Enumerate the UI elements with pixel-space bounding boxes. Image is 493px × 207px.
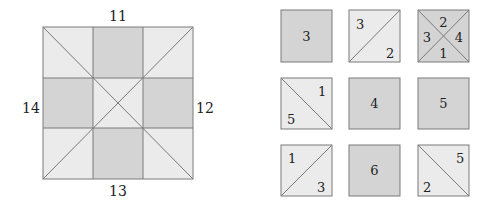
tile: 1 5 — [281, 78, 332, 129]
cell-bottom-middle — [93, 128, 143, 179]
tile-grid: 3 3 2 2 4 1 3 1 5 4 5 — [281, 10, 469, 196]
tile-label: 1 — [318, 84, 326, 99]
tile: 4 — [349, 78, 400, 129]
tile-label: 2 — [386, 46, 394, 61]
big-square: 11 12 13 14 — [22, 8, 214, 199]
tile-label: 3 — [317, 180, 325, 195]
diagram-canvas: 11 12 13 14 3 3 2 2 4 1 3 1 — [0, 0, 493, 207]
cell-top-middle — [93, 27, 143, 78]
tile-label: 3 — [302, 29, 310, 44]
tile-label: 4 — [455, 30, 463, 45]
label-bottom: 13 — [109, 183, 127, 199]
tile-label: 5 — [439, 96, 447, 111]
tile-label: 6 — [370, 163, 378, 178]
tile-label: 3 — [356, 17, 364, 32]
tile-label: 5 — [456, 151, 464, 166]
tile: 2 4 1 3 — [418, 10, 469, 62]
tile-label: 3 — [423, 30, 431, 45]
tile: 3 2 — [349, 10, 400, 62]
cell-middle-right — [143, 78, 193, 128]
label-left: 14 — [22, 100, 40, 116]
tile: 3 — [281, 10, 332, 62]
tile-label: 1 — [288, 151, 296, 166]
label-top: 11 — [109, 8, 127, 24]
tile: 5 2 — [418, 145, 469, 196]
tile: 6 — [349, 145, 400, 196]
tile-label: 5 — [287, 112, 295, 127]
label-right: 12 — [196, 100, 214, 116]
cell-middle-left — [43, 78, 93, 128]
tile-label: 4 — [370, 96, 378, 111]
tile-label: 2 — [423, 180, 431, 195]
tile-label: 2 — [439, 15, 447, 30]
tile: 1 3 — [281, 145, 332, 196]
tile: 5 — [418, 78, 469, 129]
tile-label: 1 — [439, 46, 447, 61]
